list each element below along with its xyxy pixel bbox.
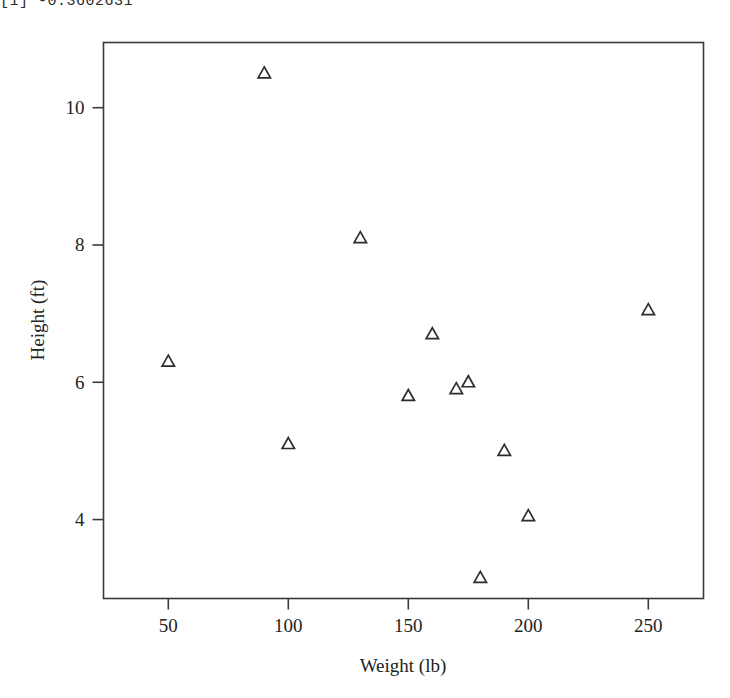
plot-frame-box bbox=[104, 43, 704, 599]
data-point-marker bbox=[162, 355, 174, 366]
data-point-marker bbox=[426, 328, 438, 339]
x-axis-tick-labels: 50100150200250 bbox=[159, 615, 663, 636]
x-axis-ticks bbox=[168, 599, 648, 610]
data-point-marker bbox=[258, 67, 270, 78]
data-point-marker bbox=[282, 438, 294, 449]
x-tick-label: 250 bbox=[634, 615, 663, 636]
data-point-marker bbox=[522, 510, 534, 521]
y-tick-label: 4 bbox=[75, 509, 85, 530]
y-tick-label: 8 bbox=[75, 234, 85, 255]
data-point-marker bbox=[450, 383, 462, 394]
x-tick-label: 150 bbox=[394, 615, 423, 636]
x-tick-label: 50 bbox=[159, 615, 178, 636]
data-point-marker bbox=[354, 232, 366, 243]
y-axis-title: Height (ft) bbox=[27, 280, 49, 361]
x-tick-label: 100 bbox=[274, 615, 303, 636]
data-point-marker bbox=[462, 376, 474, 387]
y-axis-tick-labels: 46810 bbox=[66, 97, 86, 530]
x-axis-title: Weight (lb) bbox=[360, 655, 447, 677]
data-point-marker bbox=[402, 390, 414, 401]
scatter-data-markers bbox=[162, 67, 654, 582]
y-axis-ticks bbox=[93, 108, 104, 520]
y-tick-label: 10 bbox=[66, 97, 85, 118]
x-tick-label: 200 bbox=[514, 615, 543, 636]
data-point-marker bbox=[642, 304, 654, 315]
scatter-plot-figure: 50100150200250 46810 Weight (lb) Height … bbox=[0, 0, 730, 698]
data-point-marker bbox=[474, 571, 486, 582]
data-point-marker bbox=[498, 444, 510, 455]
y-tick-label: 6 bbox=[75, 372, 85, 393]
plot-canvas: 50100150200250 46810 Weight (lb) Height … bbox=[0, 0, 730, 698]
